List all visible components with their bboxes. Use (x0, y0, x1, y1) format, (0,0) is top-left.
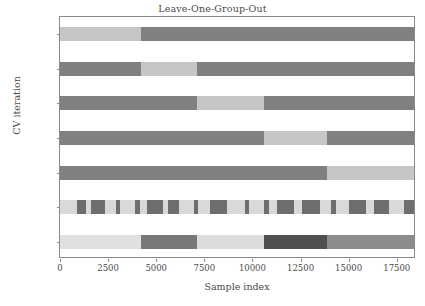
group-segment-3 (264, 235, 328, 249)
cv-segment-test (197, 96, 264, 110)
group-segment-2 (197, 235, 264, 249)
chart-title: Leave-One-Group-Out (0, 3, 425, 14)
x-tick-mark-2500 (108, 259, 109, 262)
cv-row-2 (60, 96, 414, 110)
plot-axes: 025005000750010000125001500017500 (59, 16, 415, 258)
x-tick-label-17500: 17500 (367, 263, 425, 273)
x-tick-mark-15000 (349, 259, 350, 262)
class-segment-1 (277, 200, 293, 214)
cv-segment-test (60, 27, 141, 41)
class-segment-0 (269, 200, 278, 214)
figure: Leave-One-Group-Out 02500500075001000012… (0, 0, 425, 306)
class-segment-1 (374, 200, 389, 214)
x-tick-mark-7500 (204, 259, 205, 262)
class-segment-0 (227, 200, 244, 214)
y-tick-mark-4 (57, 173, 60, 174)
class-segment-1 (147, 200, 163, 214)
class-segment-0 (294, 200, 303, 214)
group-segment-1 (141, 235, 197, 249)
group-segment-4 (327, 235, 414, 249)
class-segment-0 (140, 200, 147, 214)
cv-row-1 (60, 62, 414, 76)
class-segment-1 (349, 200, 366, 214)
y-tick-mark-3 (57, 138, 60, 139)
x-tick-mark-10000 (252, 259, 253, 262)
class-segment-0 (105, 200, 116, 214)
y-tick-mark-2 (57, 103, 60, 104)
group-segment-0 (60, 235, 141, 249)
class-segment-1 (168, 200, 180, 214)
class-segment-0 (366, 200, 374, 214)
cv-segment-train (60, 96, 197, 110)
cv-segment-train (327, 131, 414, 145)
class-segment-0 (336, 200, 349, 214)
x-tick-mark-12500 (301, 259, 302, 262)
cv-segment-test (264, 131, 328, 145)
class-segment-0 (249, 200, 264, 214)
x-tick-mark-17500 (397, 259, 398, 262)
class-segment-0 (179, 200, 193, 214)
y-axis-label: CV iteration (11, 56, 22, 156)
cv-segment-train (60, 166, 327, 180)
cv-row-3 (60, 131, 414, 145)
y-tick-mark-0 (57, 34, 60, 35)
class-row (60, 200, 414, 214)
class-segment-0 (120, 200, 135, 214)
x-tick-mark-0 (60, 259, 61, 262)
cv-segment-train (60, 131, 264, 145)
x-tick-mark-5000 (156, 259, 157, 262)
class-segment-0 (60, 200, 77, 214)
cv-segment-train (141, 27, 414, 41)
cv-row-4 (60, 166, 414, 180)
class-segment-1 (404, 200, 414, 214)
cv-row-0 (60, 27, 414, 41)
group-row (60, 235, 414, 249)
y-tick-mark-class (57, 207, 60, 208)
class-segment-0 (389, 200, 404, 214)
heatmap-plot-area (60, 17, 414, 257)
cv-segment-train (60, 62, 141, 76)
y-tick-mark-group (57, 242, 60, 243)
cv-segment-test (141, 62, 197, 76)
class-segment-1 (77, 200, 86, 214)
class-segment-0 (198, 200, 211, 214)
y-tick-mark-1 (57, 69, 60, 70)
cv-segment-train (197, 62, 414, 76)
x-axis-label: Sample index (59, 281, 415, 292)
class-segment-1 (302, 200, 319, 214)
class-segment-1 (210, 200, 227, 214)
class-segment-0 (320, 200, 332, 214)
cv-segment-train (264, 96, 414, 110)
class-segment-1 (91, 200, 105, 214)
cv-segment-test (327, 166, 414, 180)
